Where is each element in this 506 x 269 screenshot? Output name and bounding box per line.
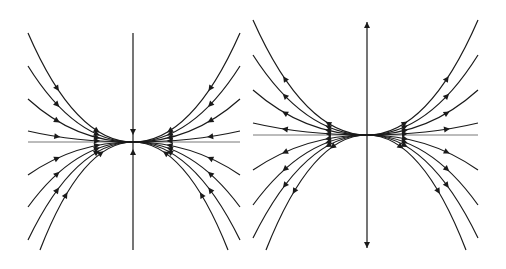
trajectory-curve [367,90,478,135]
arrow-down-icon [364,242,370,248]
trajectory-curve [367,20,478,135]
arrow-outward-icon [282,127,288,133]
stable-node-panel [28,33,240,250]
trajectory-curve [133,142,240,207]
arrow-inward-icon [207,133,213,139]
arrow-inward-icon [208,84,214,91]
arrow-down-icon [130,129,136,135]
trajectory-curve [28,99,133,142]
trajectory-curve [133,33,240,142]
trajectory-curve [367,135,466,250]
trajectory-curve [28,66,133,142]
arrow-outward-icon [443,181,449,188]
trajectory-curve [253,90,367,135]
trajectory-curve [253,135,367,170]
trajectory-curve [367,135,478,205]
arrow-up-icon [364,22,370,28]
arrow-up-icon [130,149,136,155]
arrow-inward-icon [53,188,59,195]
trajectory-curve [28,33,133,142]
trajectory-curve [367,55,478,135]
arrow-inward-icon [163,151,170,157]
arrow-inward-icon [54,133,60,139]
unstable-node-panel [253,20,478,250]
trajectory-curve [28,142,133,175]
arrow-inward-icon [208,188,214,195]
trajectory-curve [28,142,133,207]
trajectory-curve [40,142,133,250]
trajectory-curve [253,55,367,135]
trajectory-curve [266,135,367,250]
trajectory-curve [133,99,240,142]
trajectory-curve [133,142,240,175]
trajectory-curve [367,135,478,170]
arrow-outward-icon [443,76,449,83]
trajectory-curve [253,20,367,135]
arrow-inward-icon [53,84,59,91]
arrow-outward-icon [283,181,289,188]
trajectory-curve [253,135,367,205]
phase-portrait-figure [0,0,506,269]
phase-portrait-canvas [0,0,506,269]
arrow-outward-icon [283,76,289,83]
arrow-outward-icon [444,127,450,133]
trajectory-curve [133,66,240,142]
